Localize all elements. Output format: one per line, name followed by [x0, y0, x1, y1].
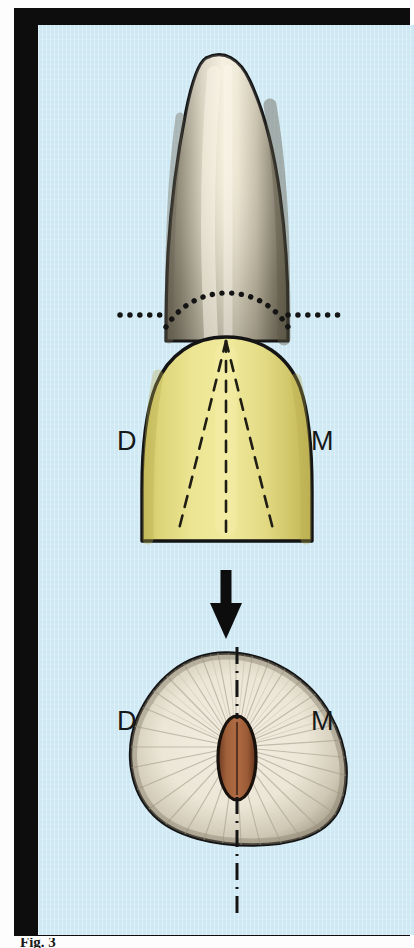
figure-caption: Fig. 3	[20, 938, 56, 948]
tooth-crown	[142, 337, 312, 541]
pulp-canal	[218, 716, 256, 800]
tooth-labial-view	[38, 25, 414, 935]
figure-caption-strip: Fig. 3	[14, 938, 410, 948]
section-level-arrow	[210, 570, 242, 639]
label-mesial-section: M	[311, 708, 334, 735]
figure-frame: D M D M	[14, 8, 410, 936]
label-distal-crown: D	[117, 428, 137, 455]
label-mesial-crown: M	[311, 428, 334, 455]
root-cross-section	[114, 643, 362, 917]
tooth-root	[166, 55, 288, 341]
figure-plate: D M D M	[38, 25, 414, 935]
label-distal-section: D	[117, 708, 137, 735]
